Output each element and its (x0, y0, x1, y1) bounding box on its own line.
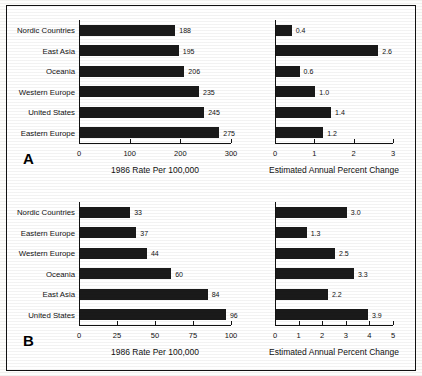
y-axis-line (79, 20, 80, 143)
bar (276, 289, 328, 300)
x-axis-tick (155, 321, 156, 325)
x-axis-tick (180, 139, 181, 143)
x-axis-tick-label: 2 (320, 331, 324, 340)
bar (80, 227, 136, 238)
x-axis-tick (117, 321, 118, 325)
x-axis-tick (346, 321, 347, 325)
bar-value-label: 275 (223, 129, 235, 136)
bar-value-label: 0.6 (304, 68, 314, 75)
x-axis-tick-label: 3 (391, 149, 395, 158)
x-axis-caption: Estimated Annual Percent Change (269, 165, 399, 175)
bar-value-label: 206 (188, 68, 200, 75)
x-axis-tick (314, 139, 315, 143)
panel-a: A 01002003001986 Rate Per 100,000188Nord… (9, 8, 417, 190)
bar (80, 127, 219, 138)
category-label: Oceania (13, 67, 75, 76)
bar-value-label: 3.3 (358, 270, 368, 277)
bar (276, 207, 347, 218)
x-axis-tick (299, 321, 300, 325)
figure-frame: A 01002003001986 Rate Per 100,000188Nord… (6, 5, 416, 371)
category-label: Nordic Countries (13, 208, 75, 217)
x-axis-tick-label: 75 (189, 331, 197, 340)
x-axis-tick-label: 2 (352, 149, 356, 158)
x-axis-tick-label: 25 (113, 331, 121, 340)
bar (80, 66, 184, 77)
bar (80, 268, 171, 279)
y-axis-line (275, 202, 276, 325)
bar-value-label: 1.2 (327, 129, 337, 136)
chart-a-rate: 01002003001986 Rate Per 100,000188Nordic… (13, 16, 249, 184)
x-axis-line (275, 325, 393, 326)
category-label: East Asia (13, 46, 75, 55)
category-label: Western Europe (13, 249, 75, 258)
x-axis-line (79, 325, 231, 326)
x-axis-tick (193, 321, 194, 325)
x-axis-tick-label: 0 (77, 331, 81, 340)
x-axis-tick-label: 0 (77, 149, 81, 158)
x-axis-tick-label: 0 (273, 149, 277, 158)
figure-root: A 01002003001986 Rate Per 100,000188Nord… (0, 0, 422, 376)
bar-value-label: 3.0 (351, 209, 361, 216)
bar (276, 309, 368, 320)
category-label: Nordic Countries (13, 26, 75, 35)
bar (80, 207, 130, 218)
bar-value-label: 2.6 (382, 47, 392, 54)
bar (80, 107, 204, 118)
bar-value-label: 235 (203, 88, 215, 95)
x-axis-tick-label: 0 (273, 331, 277, 340)
chart-b-rate: 02550751001986 Rate Per 100,00033Nordic … (13, 198, 249, 366)
x-axis-tick (322, 321, 323, 325)
bar-value-label: 1.3 (311, 229, 321, 236)
category-label: Oceania (13, 269, 75, 278)
x-axis-caption: 1986 Rate Per 100,000 (111, 347, 199, 357)
x-axis-tick-label: 100 (123, 149, 136, 158)
category-label: East Asia (13, 290, 75, 299)
x-axis-tick-label: 3 (344, 331, 348, 340)
bar-value-label: 3.9 (372, 311, 382, 318)
bar-value-label: 1.4 (335, 109, 345, 116)
bar-value-label: 195 (183, 47, 195, 54)
x-axis-tick-label: 200 (174, 149, 187, 158)
bar (276, 248, 335, 259)
bar (80, 45, 179, 56)
bar-value-label: 60 (175, 270, 183, 277)
figure-frame-inner: A 01002003001986 Rate Per 100,000188Nord… (9, 8, 411, 366)
x-axis-tick-label: 1 (297, 331, 301, 340)
x-axis-tick (130, 139, 131, 143)
x-axis-line (79, 143, 231, 144)
x-axis-tick (275, 321, 276, 325)
bar (276, 86, 315, 97)
x-axis-caption: 1986 Rate Per 100,000 (111, 165, 199, 175)
bar (276, 227, 307, 238)
bar-value-label: 2.2 (332, 291, 342, 298)
bar-value-label: 37 (140, 229, 148, 236)
x-axis-tick-label: 300 (225, 149, 238, 158)
bar-value-label: 2.5 (339, 250, 349, 257)
category-label: Eastern Europe (13, 128, 75, 137)
x-axis-tick-label: 4 (367, 331, 371, 340)
bar (276, 45, 378, 56)
panel-b: B 02550751001986 Rate Per 100,00033Nordi… (9, 190, 417, 372)
bar (276, 127, 323, 138)
bar-value-label: 84 (212, 291, 220, 298)
bar (80, 25, 175, 36)
bar (80, 309, 226, 320)
bar-value-label: 245 (208, 109, 220, 116)
x-axis-tick-label: 100 (225, 331, 238, 340)
bar-value-label: 44 (151, 250, 159, 257)
x-axis-caption: Estimated Annual Percent Change (269, 347, 399, 357)
x-axis-tick (354, 139, 355, 143)
bar-value-label: 96 (230, 311, 238, 318)
x-axis-tick (231, 321, 232, 325)
x-axis-tick (393, 321, 394, 325)
chart-a-percent-change: 0123Estimated Annual Percent Change0.42.… (253, 16, 413, 184)
bar-value-label: 0.4 (296, 27, 306, 34)
category-label: United States (13, 108, 75, 117)
bar (80, 86, 199, 97)
bar (80, 248, 147, 259)
x-axis-tick (79, 139, 80, 143)
bar (276, 268, 354, 279)
x-axis-tick (393, 139, 394, 143)
y-axis-line (79, 202, 80, 325)
bar (276, 25, 292, 36)
